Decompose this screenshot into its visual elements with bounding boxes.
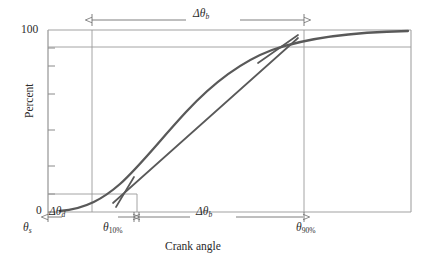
y-axis-title: Percent [24, 61, 36, 141]
delta-theta-d-symbol: Δθ [49, 205, 61, 217]
delta-theta-d-subscript: d [61, 210, 65, 219]
guide-lines [48, 30, 411, 212]
label-delta-theta-b-top: Δθb [193, 8, 209, 21]
label-theta-90-percent: θ90% [296, 222, 316, 235]
delta-theta-b-top-symbol: Δθ [193, 7, 205, 19]
tangent-lines [113, 35, 298, 207]
theta-10-subscript: 10% [109, 226, 123, 235]
y-tick-label-0: 0 [36, 205, 42, 217]
label-theta-10-percent: θ10% [103, 222, 123, 235]
theta-spark-subscript: s [29, 226, 32, 235]
delta-theta-b-bottom-symbol: Δθ [196, 205, 208, 217]
axis-frame [48, 30, 411, 212]
label-theta-spark: θs [23, 222, 32, 235]
label-delta-theta-d: Δθd [49, 206, 65, 219]
chart-canvas [0, 0, 432, 264]
span-arrow-delta-theta-b-bottom [139, 212, 304, 222]
y-tick-label-100: 100 [21, 24, 38, 36]
figure-container: Percent 100 0 Crank angle θs θ10% θ90% Δ… [0, 0, 432, 264]
burn-rate-curve [60, 31, 408, 211]
label-delta-theta-b-bottom: Δθb [196, 206, 212, 219]
x-axis-title: Crank angle [165, 241, 221, 253]
y-axis-ticks [48, 48, 55, 212]
delta-theta-b-top-subscript: b [205, 12, 209, 21]
theta-90-subscript: 90% [302, 226, 316, 235]
delta-theta-b-bottom-subscript: b [208, 210, 212, 219]
